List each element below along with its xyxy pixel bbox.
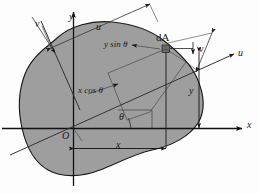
x-dimension-label: x (116, 140, 120, 150)
v-axis-label-topleft: v (35, 19, 39, 29)
y-dimension-label: y (189, 86, 193, 96)
angle-theta-label: θ (119, 112, 124, 122)
u-dimension-label: u (96, 22, 101, 32)
y-axis-label: y (69, 12, 73, 22)
x-cos-theta-label: x cos θ (78, 86, 103, 95)
v-dimension-label: v (199, 44, 203, 54)
moment-of-inertia-diagram: v y u dA v u y sin θ x cos θ y θ x O x (0, 0, 259, 193)
y-sin-theta-label: y sin θ (104, 40, 127, 49)
element-label-dA: dA (156, 32, 169, 43)
differential-element-marker (162, 45, 170, 53)
origin-label: O (62, 131, 69, 141)
u-axis-label: u (238, 48, 243, 58)
x-axis-label: x (247, 120, 251, 130)
